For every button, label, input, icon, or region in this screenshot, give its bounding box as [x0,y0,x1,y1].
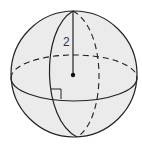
sphere-diagram: 2 [0,0,142,147]
center-point [71,73,75,77]
radius-label: 2 [63,35,70,49]
